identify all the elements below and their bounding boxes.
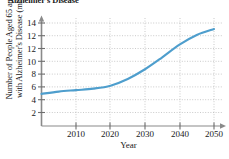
y-tick-label: 10 — [27, 57, 37, 67]
y-tick-label: 14 — [27, 18, 37, 28]
y-tick-label: 4 — [32, 95, 37, 105]
x-tick-label: 2040 — [171, 129, 190, 139]
chart-figure: Alzheimer's Disease Number of People Age… — [0, 0, 229, 159]
y-tick-labels: 14 12 10 8 6 4 2 12 — [27, 18, 37, 118]
y-tick-label: 2 — [32, 108, 37, 118]
x-tick-label: 2050 — [205, 129, 224, 139]
x-tick-label: 2020 — [101, 129, 120, 139]
plot-area: 14 12 10 8 6 4 2 12 2010 2020 2030 2040 … — [0, 0, 229, 159]
y-tick-label: 6 — [32, 82, 37, 92]
x-axis-label: Year — [0, 140, 229, 150]
x-axis — [42, 123, 227, 128]
y-tick-label: 8 — [32, 69, 37, 79]
x-tick-labels: 2010 2020 2030 2040 2050 — [67, 129, 224, 139]
x-tick-label: 2030 — [136, 129, 155, 139]
x-tick-label: 2010 — [67, 129, 86, 139]
y-tick-label: 12 — [27, 31, 36, 41]
y-axis — [39, 16, 44, 127]
x-axis-label-text: Year — [92, 140, 137, 150]
y-tick-label: 12 — [27, 44, 36, 54]
grid-vertical — [76, 18, 214, 126]
